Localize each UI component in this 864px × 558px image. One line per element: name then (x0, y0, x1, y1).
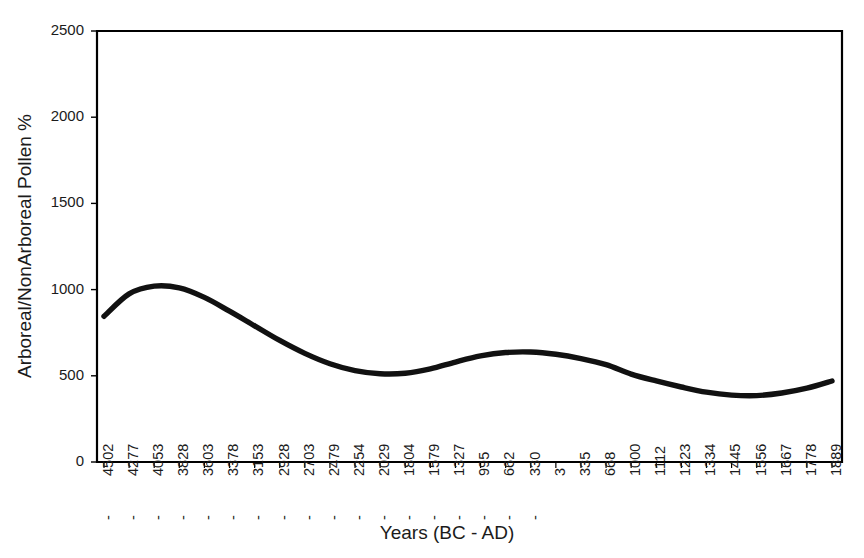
y-tick-label: 0 (76, 452, 84, 469)
x-tick-label: 1804 (401, 444, 417, 476)
x-tick-label: 3603 (200, 444, 216, 476)
x-tick-label-minus-sign: - (250, 515, 266, 520)
x-tick-label: 3153 (250, 444, 266, 476)
x-tick-label-minus-sign: - (351, 515, 367, 520)
x-tick-label: 330 (527, 452, 543, 476)
x-tick-label: 1223 (677, 444, 693, 476)
x-tick-label-minus-sign: - (326, 515, 342, 520)
x-axis-tick-labels: 4502-4277-4053-3828-3603-3378-3153-2928-… (100, 444, 844, 520)
x-tick-label: 2703 (301, 444, 317, 476)
x-tick-label-minus-sign: - (501, 515, 517, 520)
pollen-line-chart: 05001000150020002500 4502-4277-4053-3828… (0, 0, 864, 558)
x-tick-label: 4502 (100, 444, 116, 476)
x-tick-label: 668 (602, 452, 618, 476)
x-tick-label: 2029 (376, 444, 392, 476)
y-tick-label: 2000 (51, 107, 84, 124)
series-line-pollen (104, 286, 832, 396)
x-tick-label-minus-sign: - (527, 515, 543, 520)
x-tick-label-minus-sign: - (376, 515, 392, 520)
x-tick-label-minus-sign: - (150, 515, 166, 520)
chart-figure: 05001000150020002500 4502-4277-4053-3828… (0, 0, 864, 558)
x-tick-label: 1000 (627, 444, 643, 476)
x-tick-label-minus-sign: - (451, 515, 467, 520)
x-tick-label-minus-sign: - (276, 515, 292, 520)
x-tick-label-minus-sign: - (125, 515, 141, 520)
x-tick-label-minus-sign: - (401, 515, 417, 520)
x-tick-label: 3828 (175, 444, 191, 476)
x-tick-label: 335 (577, 452, 593, 476)
x-tick-label-minus-sign: - (225, 515, 241, 520)
y-tick-label: 2500 (51, 21, 84, 38)
x-tick-label: 662 (501, 452, 517, 476)
x-tick-label-minus-sign: - (100, 515, 116, 520)
x-tick-label: 2928 (276, 444, 292, 476)
x-tick-label: 1889 (828, 444, 844, 476)
x-tick-label: 4277 (125, 444, 141, 476)
x-tick-label: 2254 (351, 444, 367, 476)
x-tick-label: 1579 (426, 444, 442, 476)
x-tick-label-minus-sign: - (301, 515, 317, 520)
x-tick-label: 1334 (702, 444, 718, 476)
data-series-group (104, 286, 832, 396)
x-tick-label: 1778 (803, 444, 819, 476)
y-tick-label: 1500 (51, 193, 84, 210)
x-tick-label: 3 (552, 468, 568, 476)
y-axis-tick-labels: 05001000150020002500 (51, 21, 84, 469)
x-tick-label-minus-sign: - (476, 515, 492, 520)
x-tick-label: 3378 (225, 444, 241, 476)
x-tick-label: 1327 (451, 444, 467, 476)
y-tick-label: 500 (59, 366, 84, 383)
x-tick-label: 995 (476, 452, 492, 476)
y-axis-title: Arboreal/NonArboreal Pollen % (14, 114, 35, 378)
y-tick-label: 1000 (51, 280, 84, 297)
x-tick-label-minus-sign: - (426, 515, 442, 520)
x-tick-label: 1556 (753, 444, 769, 476)
x-tick-label: 1667 (778, 444, 794, 476)
x-axis-title: Years (BC - AD) (380, 522, 514, 543)
x-tick-label: 1112 (652, 446, 668, 476)
x-tick-label-minus-sign: - (200, 515, 216, 520)
x-tick-label: 4053 (150, 444, 166, 476)
x-tick-label-minus-sign: - (175, 515, 191, 520)
x-tick-label: 1445 (727, 444, 743, 476)
x-tick-label: 2479 (326, 444, 342, 476)
